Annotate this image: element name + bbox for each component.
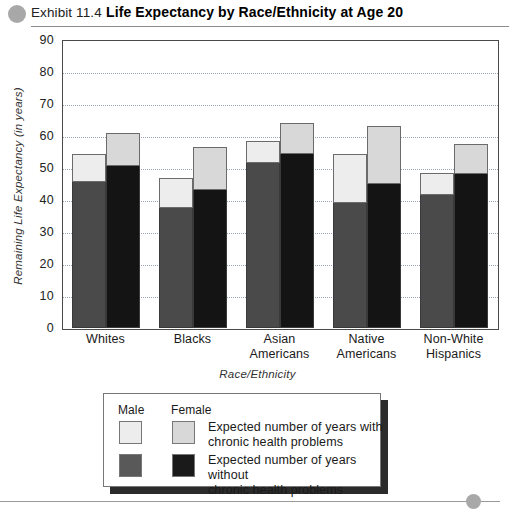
legend-label-without-line1: Expected number of years without (208, 453, 383, 483)
bar-group (236, 40, 323, 328)
bar-male (72, 154, 106, 328)
bar-male (246, 141, 280, 328)
page-title: Life Expectancy by Race/Ethnicity at Age… (106, 4, 403, 20)
bar-female-segment-with (280, 123, 314, 153)
bar-female (106, 133, 140, 328)
legend-label-with-line2: chronic health problems (208, 435, 383, 450)
bar-male-segment-with (420, 173, 454, 195)
y-axis-tick-label: 90 (14, 33, 54, 47)
bar-female (193, 147, 227, 328)
bar-group (410, 40, 497, 328)
legend-label-with-line1: Expected number of years with (208, 420, 383, 435)
bar-female-segment-with (193, 147, 227, 190)
y-axis-label: Remaining Life Expectancy (in years) (12, 71, 24, 301)
x-axis-label: Race/Ethnicity (0, 368, 515, 380)
bar-female-segment-without (280, 154, 314, 328)
bar-male (333, 154, 367, 328)
circle-bullet-icon (466, 494, 481, 509)
legend-label-without: Expected number of years without chronic… (208, 453, 383, 498)
circle-bullet-icon (8, 5, 26, 23)
bar-male-segment-with (333, 154, 367, 204)
footer-divider (0, 501, 500, 502)
bar-group (323, 40, 410, 328)
exhibit-number: Exhibit 11.4 (31, 5, 102, 20)
legend-swatch-male-without (119, 454, 142, 477)
bar-male (159, 178, 193, 328)
bar-male-segment-without (420, 195, 454, 328)
legend-column-female: Female (171, 403, 212, 417)
legend-column-male: Male (118, 403, 144, 417)
chart-legend: Male Female Expected number of years wit… (103, 393, 381, 487)
bar-female-segment-with (106, 133, 140, 167)
x-axis-tick-label: Non-WhiteHispanics (394, 332, 514, 362)
bar-male-segment-without (246, 163, 280, 328)
legend-swatch-female-without (172, 454, 195, 477)
bar-male-segment-without (159, 208, 193, 328)
bar-group (62, 40, 149, 328)
legend-swatch-male-with (119, 421, 142, 444)
bar-group (149, 40, 236, 328)
bar-groups (62, 40, 497, 328)
bar-male-segment-with (246, 141, 280, 163)
bar-female-segment-without (193, 190, 227, 328)
exhibit-header: Exhibit 11.4 Life Expectancy by Race/Eth… (0, 0, 515, 30)
x-axis-tick-label-line: Hispanics (394, 347, 514, 362)
bar-female-segment-without (454, 174, 488, 328)
legend-label-without-line2: chronic health problems (208, 483, 383, 498)
chart-area: 0102030405060708090 Remaining Life Expec… (0, 30, 515, 390)
bar-male (420, 173, 454, 328)
bar-male-segment-without (333, 203, 367, 328)
bar-male-segment-without (72, 182, 106, 328)
legend-label-with: Expected number of years with chronic he… (208, 420, 383, 450)
bar-male-segment-with (72, 154, 106, 183)
bar-female-segment-with (367, 126, 401, 184)
x-axis-tick-label-line: Non-White (394, 332, 514, 347)
bar-female (454, 144, 488, 328)
bar-female-segment-without (367, 184, 401, 328)
bar-female-segment-with (454, 144, 488, 174)
bar-female (367, 126, 401, 328)
legend-swatch-female-with (172, 421, 195, 444)
exhibit-figure: Exhibit 11.4 Life Expectancy by Race/Eth… (0, 0, 515, 516)
header-divider (31, 26, 509, 27)
bar-male-segment-with (159, 178, 193, 208)
bar-female-segment-without (106, 166, 140, 328)
bar-female (280, 123, 314, 328)
